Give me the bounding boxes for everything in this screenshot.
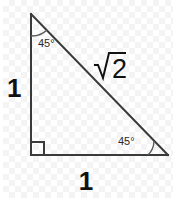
left-leg-length-label: 1: [7, 75, 21, 101]
triangle-diagram-canvas: 1 1 2 45° 45°: [0, 0, 180, 198]
radicand-value: 2: [112, 54, 127, 82]
bottom-right-angle-label: 45°: [118, 136, 135, 147]
top-angle-arc: [31, 30, 47, 36]
radical-expression: 2: [93, 48, 127, 87]
bottom-right-angle-arc: [148, 141, 154, 155]
hypotenuse-length-label: 2: [93, 48, 127, 87]
top-angle-label: 45°: [38, 38, 55, 49]
bottom-leg-length-label: 1: [79, 168, 93, 194]
sqrt-2-glyph: 2: [93, 48, 127, 82]
right-angle-marker: [31, 142, 44, 155]
